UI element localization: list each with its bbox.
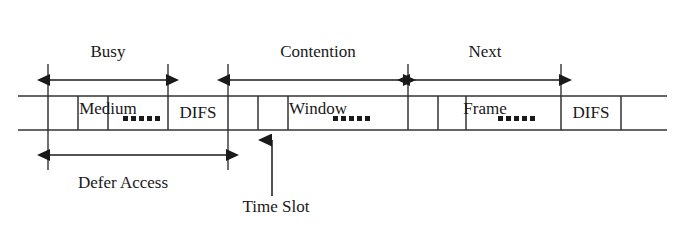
label-next-frame-line1: Next	[425, 42, 545, 61]
csma-ca-timing-diagram: Busy Medium Contention Window Next Frame…	[0, 0, 685, 233]
label-contention-window: Contention Window	[238, 4, 398, 156]
label-next-frame: Next Frame	[425, 4, 545, 156]
cell-label-difs-2: DIFS	[561, 103, 621, 123]
label-contention-window-line2: Window	[238, 99, 398, 118]
label-busy-medium: Busy Medium	[48, 4, 168, 156]
label-busy-medium-line1: Busy	[48, 42, 168, 61]
label-busy-medium-line2: Medium	[48, 99, 168, 118]
label-time-slot: Time Slot	[216, 197, 336, 216]
label-next-frame-line2: Frame	[425, 99, 545, 118]
cell-label-difs-1: DIFS	[168, 103, 228, 123]
label-defer-access: Defer Access	[43, 173, 203, 192]
label-contention-window-line1: Contention	[238, 42, 398, 61]
